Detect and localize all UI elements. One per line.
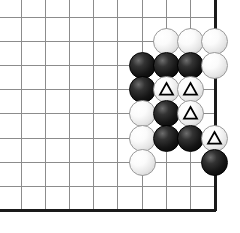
white-stone-marked: [177, 100, 204, 127]
go-board-diagram: [0, 0, 240, 233]
white-stone: [201, 52, 228, 79]
white-stone-marked: [201, 125, 228, 152]
black-stone: [177, 52, 204, 79]
white-stone: [177, 28, 204, 55]
white-stone: [129, 149, 156, 176]
black-stone: [201, 149, 228, 176]
black-stone: [129, 76, 156, 103]
black-stone: [153, 100, 180, 127]
white-stone: [129, 100, 156, 127]
black-stone: [153, 125, 180, 152]
black-stone: [177, 125, 204, 152]
stone-layer: [0, 0, 240, 233]
black-stone: [153, 52, 180, 79]
white-stone: [201, 28, 228, 55]
white-stone-marked: [177, 76, 204, 103]
triangle-mark-icon: [178, 77, 203, 102]
black-stone: [129, 52, 156, 79]
white-stone: [129, 125, 156, 152]
white-stone-marked: [153, 76, 180, 103]
white-stone: [153, 28, 180, 55]
triangle-mark-icon: [154, 77, 179, 102]
triangle-mark-icon: [178, 101, 203, 126]
triangle-mark-icon: [202, 126, 227, 151]
